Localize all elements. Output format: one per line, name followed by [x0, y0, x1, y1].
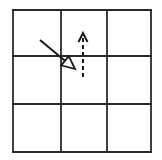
- grid-diagram-svg: [0, 0, 162, 160]
- three-by-three-grid: [13, 10, 151, 152]
- solid-diagonal-arrow: [40, 40, 75, 69]
- dashed-vertical-arrow: [79, 33, 88, 77]
- grid-diagram: [0, 0, 162, 160]
- arrows: [40, 33, 88, 77]
